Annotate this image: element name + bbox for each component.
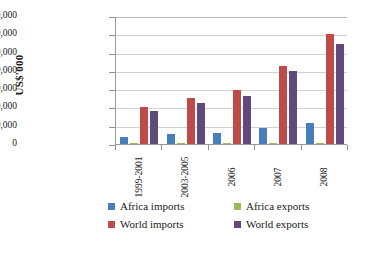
y-axis-tick-label-text: 0 (12, 138, 17, 148)
bar[interactable] (259, 128, 267, 144)
y-axis-tick-label-text: 6,00,00,000 (0, 83, 17, 93)
legend-label: Africa exports (246, 200, 309, 212)
y-axis-tick-label-text: 14,00,00,000 (0, 10, 17, 20)
bar[interactable] (243, 96, 251, 144)
bar-group (302, 17, 348, 144)
x-axis-tick-mark (301, 145, 302, 150)
bar[interactable] (187, 98, 195, 144)
bar[interactable] (167, 134, 175, 144)
x-axis-category-label: 2008 (317, 152, 331, 200)
bar[interactable] (213, 133, 221, 144)
x-axis-category-label: 2007 (270, 152, 284, 200)
x-axis-tick-mark (115, 145, 116, 150)
bar-group (209, 17, 255, 144)
legend-item[interactable]: World exports (234, 218, 352, 230)
y-axis-tick-label-text: 4,00,00,000 (0, 101, 17, 111)
y-axis-tick-label-text: 2,00,00,000 (0, 120, 17, 130)
bar-group (255, 17, 301, 144)
chart-legend: Africa importsAfrica exportsWorld import… (108, 200, 352, 230)
bar-group (116, 17, 162, 144)
y-axis-tick-label-text: 10,00,00,000 (0, 47, 17, 57)
bar[interactable] (120, 137, 128, 144)
bar[interactable] (223, 143, 231, 144)
bar[interactable] (306, 123, 314, 144)
bar[interactable] (279, 66, 287, 144)
x-axis-tick-mark (161, 145, 162, 150)
x-axis-category-label: 2003-2005 (178, 152, 192, 200)
legend-swatch (234, 203, 241, 210)
bar[interactable] (197, 103, 205, 144)
y-axis-tick-label-text: 12,00,00,000 (0, 28, 17, 38)
bar[interactable] (130, 143, 138, 144)
x-axis-category-label-text: 2008 (319, 168, 329, 187)
legend-swatch (108, 221, 115, 228)
bar[interactable] (233, 90, 241, 144)
legend-label: Africa imports (120, 200, 184, 212)
x-axis-category-label-text: 2006 (226, 168, 236, 187)
legend-label: World imports (120, 218, 184, 230)
x-axis-category-label: 1999-2001 (131, 152, 145, 200)
legend-label: World exports (246, 218, 308, 230)
legend-item[interactable]: World imports (108, 218, 234, 230)
legend-item[interactable]: Africa imports (108, 200, 234, 212)
bar-chart: US$'000 02,00,00,0004,00,00,0006,00,00,0… (0, 0, 366, 256)
x-axis-tick-mark (254, 145, 255, 150)
x-axis-category-label: 2006 (224, 152, 238, 200)
bar[interactable] (150, 111, 158, 144)
x-axis-tick-mark (347, 145, 348, 150)
bar[interactable] (336, 44, 344, 144)
bar[interactable] (269, 143, 277, 144)
legend-item[interactable]: Africa exports (234, 200, 352, 212)
legend-swatch (108, 203, 115, 210)
bar[interactable] (326, 34, 334, 144)
x-axis-category-label-text: 1999-2001 (133, 156, 143, 197)
bar[interactable] (140, 107, 148, 144)
bar[interactable] (177, 143, 185, 144)
plot-area (115, 17, 347, 145)
bar[interactable] (316, 143, 324, 144)
y-axis-tick-label-text: 8,00,00,000 (0, 65, 17, 75)
x-axis-category-label-text: 2007 (272, 168, 282, 187)
bar-group (162, 17, 208, 144)
legend-swatch (234, 221, 241, 228)
x-axis-tick-mark (208, 145, 209, 150)
x-axis-category-label-text: 2003-2005 (180, 156, 190, 197)
bar[interactable] (289, 71, 297, 144)
